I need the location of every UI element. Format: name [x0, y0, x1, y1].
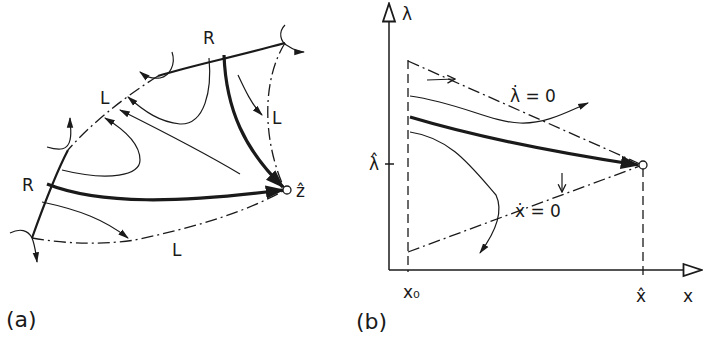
y-axis-label: λ: [402, 4, 412, 24]
equilibrium-point-z: [283, 186, 291, 194]
trajectory-upper: [410, 96, 588, 123]
trajectory-3: [62, 118, 140, 176]
y-tick-label: λ̂: [369, 152, 379, 174]
trajectory-1: [128, 58, 210, 124]
boundary-r-top: [158, 43, 285, 76]
saddle-path: [410, 117, 638, 165]
x-tick-label-x-hat: x̂: [636, 286, 646, 306]
label-r-left: R: [22, 175, 34, 195]
isocline-lambda-dot: [408, 61, 640, 164]
label-l-bottom: L: [172, 240, 182, 260]
saddle-path-left: [47, 184, 283, 200]
isocline-lambda-label: λ̇ = 0: [510, 84, 556, 106]
x-tick-label-x0: x₀: [403, 282, 420, 302]
trajectory-2: [120, 110, 240, 174]
isocline-x-label: ẋ = 0: [515, 201, 561, 221]
boundary-l-bottom: [32, 190, 285, 243]
boundary-l-upper: [68, 76, 158, 150]
panel-b-caption: (b): [356, 309, 387, 334]
trajectory-5: [238, 75, 262, 115]
hook-top-left: [140, 52, 173, 78]
hook-left: [47, 118, 71, 149]
boundary-r-left: [32, 150, 68, 238]
panel-a-caption: (a): [6, 307, 37, 332]
label-l-right: L: [272, 108, 282, 128]
label-z-hat: ẑ: [296, 181, 305, 201]
x-axis-label: x: [683, 286, 693, 306]
panel-a-phase-portrait: R R L L L ẑ (a): [6, 25, 305, 332]
panel-b-phase-diagram: λ x λ̂ x₀ x̂ λ̇ = 0 ẋ = 0 (b): [356, 4, 700, 334]
figure-canvas: R R L L L ẑ (a) λ x λ̂ x₀: [0, 0, 704, 345]
label-r-top: R: [203, 28, 215, 48]
label-l-upper: L: [100, 88, 110, 108]
hook-top-right: [281, 25, 304, 52]
equilibrium-point: [639, 161, 647, 169]
trajectory-4: [42, 202, 128, 238]
